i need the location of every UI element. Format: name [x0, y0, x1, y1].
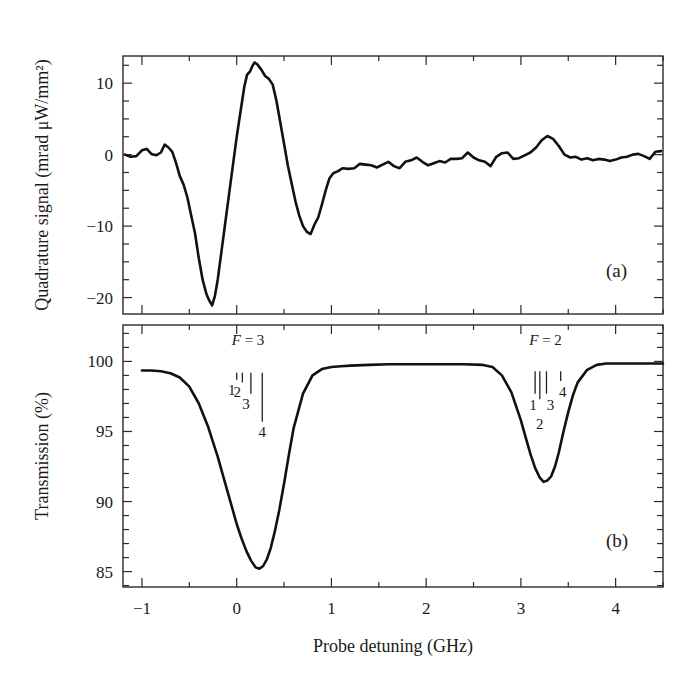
x-tick-label: 4 [611, 599, 620, 618]
hyperfine-group-F2: F = 21234 [528, 332, 567, 433]
panel-b-transmission: 100959085 −101234 F = 31234F = 21234 (b)… [32, 325, 663, 618]
hyperfine-line-label: 1 [529, 397, 537, 413]
hyperfine-line-label: 2 [234, 384, 242, 400]
y-tick-label: −10 [86, 217, 113, 236]
hyperfine-group-title: F = 2 [528, 332, 562, 348]
x-tick-label: 0 [232, 599, 241, 618]
panel-a-quadrature-signal: 100−10−20 (a) Quadrature signal (mrad μW… [32, 56, 663, 314]
hyperfine-line-label: 4 [259, 424, 267, 440]
x-tick-label: 3 [517, 599, 526, 618]
hyperfine-annotations: F = 31234F = 21234 [228, 332, 567, 440]
y-tick-label: 85 [96, 563, 113, 582]
hyperfine-line-label: 2 [536, 416, 544, 432]
panel-a-y-axis-title: Quadrature signal (mrad μW/mm²) [32, 59, 53, 310]
hyperfine-group-title: F = 3 [231, 332, 265, 348]
x-tick-label: −1 [133, 599, 151, 618]
panel-b-y-axis-title: Transmission (%) [32, 392, 53, 520]
hyperfine-line-label: 4 [559, 384, 567, 400]
panel-b-label: (b) [606, 530, 628, 552]
hyperfine-line-label: 3 [547, 397, 555, 413]
x-tick-label: 2 [422, 599, 431, 618]
y-tick-label: 100 [88, 352, 114, 371]
y-tick-label: 0 [105, 146, 114, 165]
panel-b-y-tick-labels: 100959085 [88, 352, 114, 581]
hyperfine-line-label: 3 [242, 396, 250, 412]
x-tick-label: 1 [327, 599, 336, 618]
y-tick-label: −20 [86, 289, 113, 308]
panel-a-y-tick-labels: 100−10−20 [86, 74, 113, 307]
hyperfine-group-F3: F = 31234 [228, 332, 267, 440]
panel-a-label: (a) [606, 260, 627, 282]
x-axis-title: Probe detuning (GHz) [313, 636, 473, 657]
panel-a-series-line [125, 62, 661, 305]
figure: 100−10−20 (a) Quadrature signal (mrad μW… [0, 0, 698, 675]
panel-b-series-line [142, 364, 663, 569]
y-tick-label: 90 [96, 493, 113, 512]
y-tick-label: 95 [96, 422, 113, 441]
panel-a-frame [123, 56, 663, 314]
x-tick-labels: −101234 [133, 599, 620, 618]
y-tick-label: 10 [96, 74, 113, 93]
panel-a-ticks [123, 56, 663, 314]
